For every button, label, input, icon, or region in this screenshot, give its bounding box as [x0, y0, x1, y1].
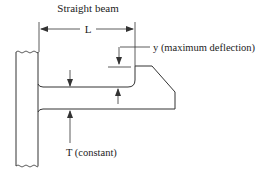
deflection-indicator: y (maximum deflection) [108, 42, 256, 67]
length-label: L [85, 23, 92, 35]
beam-diagram-svg: Straight beam L y (maximum deflection) T… [0, 0, 265, 173]
wall-break-top [16, 51, 38, 53]
thickness-indicator: T (constant) [66, 70, 118, 159]
beam-diagram: Straight beam L y (maximum deflection) T… [0, 0, 265, 173]
deflection-label: y (maximum deflection) [153, 42, 256, 54]
diagram-title: Straight beam [57, 2, 119, 14]
length-dimension: L [39, 22, 135, 66]
wall-support [16, 51, 38, 167]
thickness-label: T (constant) [66, 147, 117, 159]
beam-outline [38, 66, 175, 112]
wall-break-bottom [16, 165, 38, 167]
